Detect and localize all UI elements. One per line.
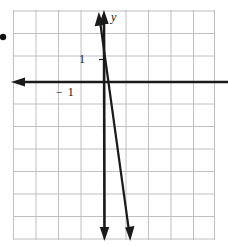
tick-label-negative-one: − 1 bbox=[56, 86, 75, 98]
bullet-marker-icon bbox=[0, 34, 6, 40]
graph-figure: 1 − 1 y bbox=[0, 0, 228, 246]
y-axis-label: y bbox=[111, 11, 116, 23]
coordinate-plane-svg bbox=[0, 0, 228, 246]
tick-label-positive-one: 1 bbox=[79, 53, 85, 65]
x-axis bbox=[11, 78, 228, 87]
